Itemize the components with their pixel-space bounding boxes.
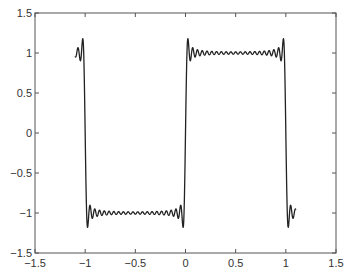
square-wave-fourier-chart: −1.5−1−0.500.511.5 −1.5−1−0.500.511.5 (0, 0, 351, 280)
y-tick-label: 1 (26, 47, 32, 59)
x-tick-label: 1 (283, 257, 289, 269)
x-tick-label: 0.5 (228, 257, 243, 269)
y-tick-label: −1 (19, 207, 32, 219)
y-tick-label: −1.5 (10, 247, 32, 259)
y-tick-label: 1.5 (17, 7, 32, 19)
x-tick-label: 1.5 (328, 257, 343, 269)
x-axis-tick-labels: −1.5−1−0.500.511.5 (24, 257, 344, 269)
x-tick-label: 0 (182, 257, 188, 269)
x-tick-label: −1 (79, 257, 92, 269)
y-tick-label: 0.5 (17, 87, 32, 99)
y-axis-tick-labels: −1.5−1−0.500.511.5 (10, 7, 32, 259)
y-tick-label: −0.5 (10, 167, 32, 179)
y-tick-label: 0 (26, 127, 32, 139)
fourier-series-line (75, 39, 296, 228)
x-tick-label: −0.5 (124, 257, 146, 269)
